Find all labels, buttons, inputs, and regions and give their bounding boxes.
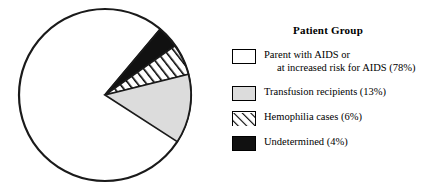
legend-item-transfusion[interactable]: Transfusion recipients (13%): [232, 85, 438, 101]
legend-item-parent-with-aids[interactable]: Parent with AIDS or at increased risk fo…: [232, 48, 438, 74]
pie-chart-figure: Patient Group Parent with AIDS or at inc…: [0, 0, 438, 192]
legend-item-hemophilia[interactable]: Hemophilia cases (6%): [232, 110, 438, 126]
legend-label-hemophilia: Hemophilia cases (6%): [264, 110, 362, 123]
legend: Patient Group Parent with AIDS or at inc…: [232, 24, 438, 174]
legend-label-parent-with-aids: Parent with AIDS or at increased risk fo…: [264, 48, 416, 74]
legend-label-line2: at increased risk for AIDS (78%): [264, 61, 416, 74]
pie-chart-area: [0, 0, 219, 192]
swatch-white: [232, 49, 256, 64]
pie-chart-svg: [0, 0, 219, 192]
swatch-gray: [232, 86, 256, 101]
swatch-hatched: [232, 111, 256, 126]
legend-label-undetermined: Undetermined (4%): [264, 135, 348, 148]
swatch-black: [232, 136, 256, 151]
legend-title: Patient Group: [232, 24, 438, 36]
legend-label-line1: Parent with AIDS or: [264, 49, 350, 60]
hatch-pattern-icon: [233, 113, 255, 126]
legend-label-transfusion: Transfusion recipients (13%): [264, 85, 386, 98]
legend-item-undetermined[interactable]: Undetermined (4%): [232, 135, 438, 151]
